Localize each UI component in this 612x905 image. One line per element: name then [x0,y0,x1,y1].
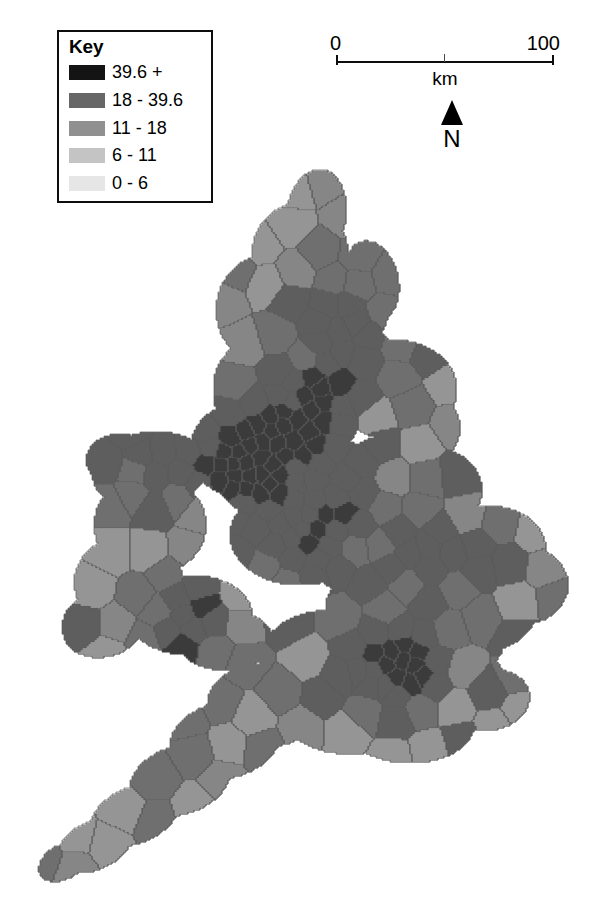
scale-tick-end [552,55,554,65]
north-arrow-triangle-icon [441,100,463,125]
north-arrow: N [430,100,474,162]
legend-swatch-1 [69,93,105,108]
legend-row-1: 18 - 39.6 [69,89,209,111]
map-svg [0,160,612,905]
legend-swatch-2 [69,121,105,136]
scale-bar-line [336,61,554,63]
legend-row-2: 11 - 18 [69,117,209,139]
scale-max-label: 100 [527,32,560,55]
scale-tick-start [336,55,338,65]
scale-unit-label: km [330,68,560,90]
choropleth-map [0,160,612,905]
map-district [226,610,266,644]
district-layer [38,170,568,882]
map-district [366,738,412,762]
legend-title: Key [69,36,103,58]
scale-bar: 0 100 km [330,32,560,94]
map-district [440,450,482,498]
map-district [286,474,306,492]
legend-label-1: 18 - 39.6 [112,91,183,109]
north-arrow-label: N [430,126,474,152]
map-figure: Key 39.6 + 18 - 39.6 11 - 18 6 - 11 0 - … [0,0,612,905]
legend-label-2: 11 - 18 [112,119,167,137]
scale-min-label: 0 [330,32,341,55]
legend-label-0: 39.6 + [112,63,163,81]
legend-row-0: 39.6 + [69,61,209,83]
scale-tick-mid [444,54,445,62]
legend-swatch-0 [69,65,105,80]
